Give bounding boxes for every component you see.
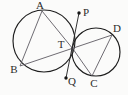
left-circle	[13, 10, 75, 72]
geometry-canvas: APDTBQC	[0, 0, 128, 95]
chord-AB	[20, 11, 42, 66]
label-point-b: B	[10, 63, 17, 75]
label-point-t: T	[58, 38, 65, 50]
label-point-c: C	[90, 77, 97, 89]
secant-B-T-D	[20, 35, 112, 66]
label-point-a: A	[36, 0, 44, 11]
label-point-d: D	[113, 22, 121, 34]
label-point-q: Q	[68, 75, 76, 87]
labels-group: APDTBQC	[10, 0, 121, 89]
label-point-p: P	[83, 6, 89, 18]
right-circle	[72, 28, 120, 76]
tangent-PQ	[66, 13, 79, 78]
geometry-figure: APDTBQC	[0, 0, 128, 95]
point-marker-p	[77, 11, 80, 14]
segments-group	[20, 11, 112, 78]
